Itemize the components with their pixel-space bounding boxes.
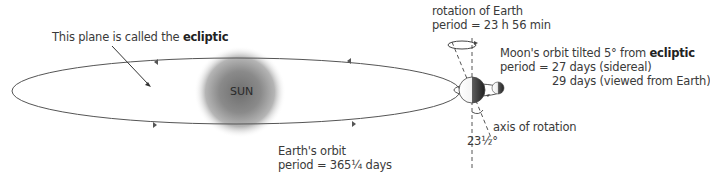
orbit-arrow-top-right-icon <box>347 58 351 64</box>
sun-label: SUN <box>230 85 253 98</box>
earth-icon <box>459 77 485 103</box>
axis-label: axis of rotation <box>493 120 576 134</box>
rotation-title: rotation of Earth <box>432 4 551 18</box>
ecliptic-note-bold: ecliptic <box>183 30 228 44</box>
ecliptic-pointer-arrow <box>112 46 148 84</box>
orbit-arrow-bottom-right-icon <box>352 121 356 127</box>
tilt-angle-label: 23½° <box>467 134 498 148</box>
earth-orbit-title: Earth's orbit <box>278 144 392 158</box>
ecliptic-note-text: This plane is called the <box>52 30 183 44</box>
earth-orbit-label: Earth's orbit period = 365¼ days <box>278 144 392 172</box>
moon-period-sidereal: period = 27 days (sidereal) <box>500 60 710 74</box>
orbit-arrow-bottom-left-icon <box>153 122 157 128</box>
moon-orbit-label: Moon's orbit tilted 5° from ecliptic per… <box>500 46 710 88</box>
moon-orbit-title-text: Moon's orbit tilted 5° from <box>500 46 650 60</box>
tilt-angle-arc <box>472 110 483 114</box>
moon-period-synodic: 29 days (viewed from Earth) <box>500 74 710 88</box>
moon-orbit-title: Moon's orbit tilted 5° from ecliptic <box>500 46 710 60</box>
ecliptic-note: This plane is called the ecliptic <box>52 30 228 44</box>
earth-orbit-period: period = 365¼ days <box>278 158 392 172</box>
ecliptic-pointer-arrowhead-icon <box>145 82 151 87</box>
rotation-label: rotation of Earth period = 23 h 56 min <box>432 4 551 32</box>
moon-orbit-title-bold: ecliptic <box>650 46 695 60</box>
rotation-period: period = 23 h 56 min <box>432 18 551 32</box>
